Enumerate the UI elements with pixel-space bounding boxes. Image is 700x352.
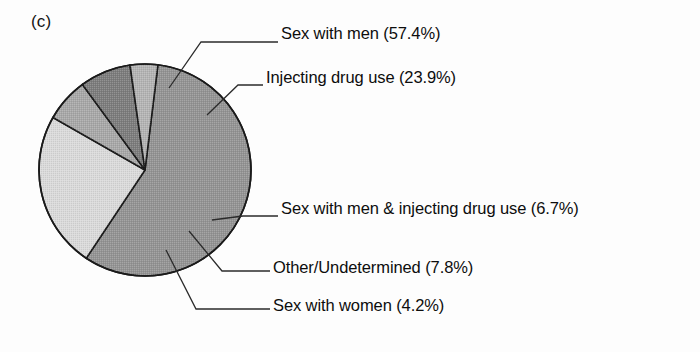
- pie-label-sex-with-women: Sex with women (4.2%): [273, 296, 444, 315]
- pie-label-other-undetermined: Other/Undetermined (7.8%): [273, 258, 473, 277]
- pie-label-injecting-drug-use: Injecting drug use (23.9%): [266, 68, 456, 87]
- panel-label: (c): [31, 12, 51, 32]
- pie-slices: [39, 64, 251, 276]
- pie-label-sex-with-men-and-injecting-drug-use: Sex with men & injecting drug use (6.7%): [281, 199, 579, 218]
- pie-chart-figure: (c) Sex with men (57.4%) Injecting drug …: [0, 0, 700, 352]
- pie-label-sex-with-men: Sex with men (57.4%): [281, 24, 440, 43]
